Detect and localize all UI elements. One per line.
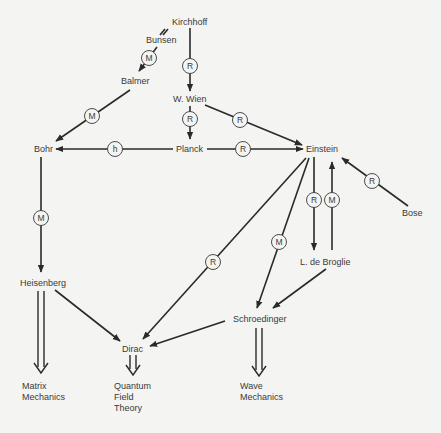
- node-planck: Planck: [176, 144, 204, 154]
- edge-debroglie-schroedinger: [273, 269, 326, 308]
- node-bunsen: Bunsen: [146, 35, 177, 45]
- badge-m-bunsen-balmer: M: [142, 51, 157, 66]
- svg-text:M: M: [275, 237, 282, 247]
- svg-text:R: R: [240, 144, 246, 154]
- svg-text:Matrix: Matrix: [22, 381, 47, 391]
- svg-text:M: M: [145, 53, 152, 63]
- physics-influence-diagram: M R M R R h R R R M M R M Kirchhoff Buns…: [0, 0, 441, 433]
- badge-m-balmer-bohr: M: [85, 109, 100, 124]
- svg-text:R: R: [187, 61, 193, 71]
- outcome-quantum-field-theory: Quantum Field Theory: [114, 381, 151, 413]
- node-wien: W. Wien: [173, 94, 207, 104]
- svg-text:R: R: [369, 176, 375, 186]
- edge-schroedinger-dirac: [150, 321, 225, 346]
- svg-text:Theory: Theory: [114, 403, 143, 413]
- edge-heisenberg-dirac: [55, 290, 120, 341]
- svg-text:M: M: [88, 111, 95, 121]
- svg-text:Field: Field: [114, 392, 134, 402]
- badge-r-planck-einstein: R: [236, 142, 251, 157]
- svg-text:Mechanics: Mechanics: [22, 392, 66, 402]
- node-bose: Bose: [402, 208, 423, 218]
- svg-text:M: M: [328, 195, 335, 205]
- badge-r-wien-einstein: R: [233, 113, 248, 128]
- edge-wien-einstein: [205, 105, 302, 145]
- node-debroglie: L. de Broglie: [300, 257, 351, 267]
- svg-text:Wave: Wave: [240, 381, 263, 391]
- badge-r-einstein-dirac: R: [206, 255, 221, 270]
- edge-einstein-schroedinger: [257, 158, 309, 308]
- badge-r-bose-einstein: R: [365, 174, 380, 189]
- badge-r-kirchhoff-wien: R: [183, 59, 198, 74]
- node-balmer: Balmer: [121, 76, 150, 86]
- svg-text:Quantum: Quantum: [114, 381, 151, 391]
- svg-text:R: R: [311, 195, 317, 205]
- outcome-matrix-mechanics: Matrix Mechanics: [22, 381, 66, 402]
- svg-text:R: R: [210, 257, 216, 267]
- double-arrow-schroedinger-wave: [252, 328, 266, 376]
- svg-text:h: h: [113, 144, 118, 154]
- badge-r-wien-planck: R: [183, 112, 198, 127]
- svg-text:M: M: [37, 213, 44, 223]
- node-kirchhoff: Kirchhoff: [172, 17, 208, 27]
- node-bohr: Bohr: [34, 144, 53, 154]
- double-arrow-heisenberg-matrix: [34, 291, 48, 373]
- badge-m-debroglie-einstein: M: [325, 193, 340, 208]
- node-einstein: Einstein: [306, 144, 338, 154]
- svg-text:Mechanics: Mechanics: [240, 392, 284, 402]
- node-schroedinger: Schroedinger: [233, 314, 287, 324]
- double-arrow-dirac-qft: [126, 355, 140, 375]
- svg-text:R: R: [187, 114, 193, 124]
- badge-r-einstein-debroglie: R: [307, 193, 322, 208]
- badge-m-einstein-schroedinger: M: [272, 235, 287, 250]
- node-heisenberg: Heisenberg: [20, 278, 66, 288]
- badge-m-bohr-heisenberg: M: [34, 211, 49, 226]
- node-dirac: Dirac: [122, 344, 144, 354]
- outcome-wave-mechanics: Wave Mechanics: [240, 381, 284, 402]
- svg-text:R: R: [237, 115, 243, 125]
- badge-h-planck-bohr: h: [108, 142, 123, 157]
